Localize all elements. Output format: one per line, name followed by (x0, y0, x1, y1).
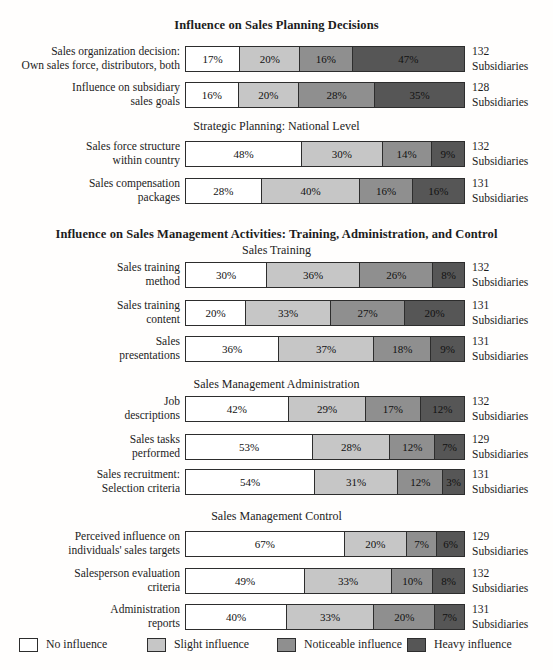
chart-row: Perceived influence on individuals' sale… (0, 531, 553, 557)
stacked-bar: 17%20%16%47% (185, 46, 465, 72)
bar-segment-slight-influence: 33% (286, 605, 373, 629)
subsidiaries-count: 132 Subsidiaries (472, 260, 528, 290)
segment-value-label: 16% (376, 185, 396, 197)
subsidiaries-count: 131 Subsidiaries (472, 176, 528, 206)
legend-item-noticeable-influence: Noticeable influence (277, 637, 402, 652)
segment-value-label: 14% (396, 148, 416, 160)
segment-value-label: 20% (260, 53, 280, 65)
bar-segment-heavy-influence: 35% (374, 83, 464, 107)
stacked-bar: 28%40%16%16% (185, 178, 465, 204)
bar-segment-heavy-influence: 7% (434, 605, 464, 629)
segment-value-label: 36% (303, 269, 323, 281)
bar-segment-noticeable-influence: 12% (389, 435, 434, 459)
chart-row: Sales compensation packages 28%40%16%16%… (0, 178, 553, 204)
bar-segment-slight-influence: 20% (238, 83, 298, 107)
bar-segment-slight-influence: 37% (278, 337, 373, 361)
chart-row: Job descriptions 42%29%17%12% 132 Subsid… (0, 396, 553, 422)
segment-value-label: 7% (442, 441, 457, 453)
legend: No influence Slight influence Noticeable… (0, 637, 553, 659)
bar-segment-noticeable-influence: 18% (373, 337, 430, 361)
bar-segment-heavy-influence: 20% (404, 301, 464, 325)
legend-label: Slight influence (174, 637, 249, 652)
bar-segment-noticeable-influence: 16% (359, 179, 411, 203)
legend-swatch-no-influence (19, 638, 38, 652)
row-label: Perceived influence on individuals' sale… (0, 530, 180, 557)
segment-value-label: 26% (386, 269, 406, 281)
bar-segment-no-influence: 40% (186, 605, 286, 629)
legend-item-heavy-influence: Heavy influence (407, 637, 512, 652)
segment-value-label: 33% (278, 307, 298, 319)
bar-segment-no-influence: 16% (186, 83, 238, 107)
stacked-bar: 54%31%12%3% (185, 469, 465, 495)
bar-segment-slight-influence: 30% (301, 142, 382, 166)
legend-swatch-noticeable-influence (277, 638, 296, 652)
segment-value-label: 30% (216, 269, 236, 281)
chart-row: Sales tasks performed 53%28%12%7% 129 Su… (0, 434, 553, 460)
stacked-bar: 36%37%18%9% (185, 336, 465, 362)
section-title-sales-management: Influence on Sales Management Activities… (0, 227, 553, 242)
row-label: Sales organization decision: Own sales f… (0, 45, 180, 72)
stacked-bar: 42%29%17%12% (185, 396, 465, 422)
row-label: Sales compensation packages (0, 177, 180, 204)
stacked-bar: 20%33%27%20% (185, 300, 465, 326)
row-label: Administration reports (0, 603, 180, 630)
segment-value-label: 33% (320, 611, 340, 623)
segment-value-label: 7% (414, 538, 429, 550)
legend-swatch-slight-influence (147, 638, 166, 652)
bar-segment-no-influence: 30% (186, 263, 266, 287)
stacked-bar: 49%33%10%8% (185, 568, 465, 594)
bar-segment-slight-influence: 31% (314, 470, 397, 494)
segment-value-label: 67% (255, 538, 275, 550)
segment-value-label: 8% (441, 575, 456, 587)
subsidiaries-count: 131 Subsidiaries (472, 334, 528, 364)
segment-value-label: 29% (317, 403, 337, 415)
segment-value-label: 35% (409, 89, 429, 101)
row-label: Job descriptions (0, 395, 180, 422)
stacked-bar: 53%28%12%7% (185, 434, 465, 460)
segment-value-label: 48% (233, 148, 253, 160)
legend-item-no-influence: No influence (19, 637, 107, 652)
segment-value-label: 40% (300, 185, 320, 197)
row-label: Sales tasks performed (0, 433, 180, 460)
subsidiaries-count: 132 Subsidiaries (472, 566, 528, 596)
bar-segment-heavy-influence: 8% (432, 569, 464, 593)
legend-label: Noticeable influence (304, 637, 402, 652)
bar-segment-no-influence: 42% (186, 397, 288, 421)
bar-segment-heavy-influence: 12% (420, 397, 464, 421)
figure-influence-chart: Influence on Sales Planning Decisions Sa… (0, 0, 553, 670)
segment-value-label: 20% (258, 89, 278, 101)
bar-segment-heavy-influence: 3% (442, 470, 464, 494)
bar-segment-slight-influence: 20% (239, 47, 299, 71)
subsidiaries-count: 128 Subsidiaries (472, 80, 528, 110)
bar-segment-no-influence: 17% (186, 47, 239, 71)
bar-segment-noticeable-influence: 7% (406, 532, 436, 556)
segment-value-label: 3% (446, 476, 461, 488)
segment-value-label: 17% (383, 403, 403, 415)
stacked-bar: 40%33%20%7% (185, 604, 465, 630)
bar-segment-slight-influence: 29% (288, 397, 366, 421)
legend-label: Heavy influence (434, 637, 512, 652)
segment-value-label: 37% (316, 343, 336, 355)
bar-segment-no-influence: 36% (186, 337, 278, 361)
bar-segment-no-influence: 54% (186, 470, 314, 494)
subsection-title-sales-training: Sales Training (0, 243, 553, 258)
bar-segment-slight-influence: 33% (304, 569, 391, 593)
bar-segment-noticeable-influence: 27% (330, 301, 404, 325)
subsection-title-sales-management-administration: Sales Management Administration (0, 377, 553, 392)
segment-value-label: 30% (332, 148, 352, 160)
segment-value-label: 9% (440, 148, 455, 160)
row-label: Sales force structure within country (0, 140, 180, 167)
chart-row: Administration reports 40%33%20%7% 131 S… (0, 604, 553, 630)
segment-value-label: 17% (203, 53, 223, 65)
bar-segment-slight-influence: 20% (344, 532, 406, 556)
row-label: Sales training content (0, 299, 180, 326)
bar-segment-no-influence: 20% (186, 301, 245, 325)
subsidiaries-count: 132 Subsidiaries (472, 44, 528, 74)
row-label: Sales presentations (0, 335, 180, 362)
bar-segment-noticeable-influence: 20% (373, 605, 434, 629)
segment-value-label: 16% (316, 53, 336, 65)
segment-value-label: 27% (358, 307, 378, 319)
segment-value-label: 49% (235, 575, 255, 587)
segment-value-label: 40% (226, 611, 246, 623)
segment-value-label: 12% (410, 476, 430, 488)
